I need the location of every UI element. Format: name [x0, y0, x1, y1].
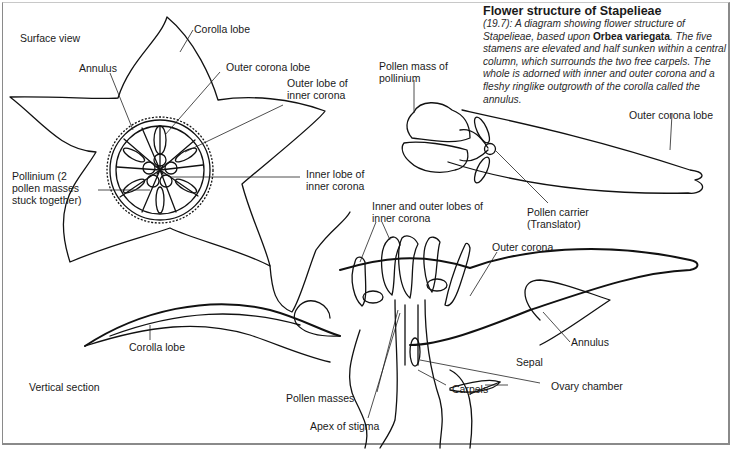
label-sepal: Sepal — [516, 356, 543, 368]
caption-body: (19.7): A diagram showing flower structu… — [483, 18, 731, 106]
caption-species-name: Orbea variegata — [593, 31, 670, 42]
figure-caption: Flower structure of Stapelieae (19.7): A… — [483, 4, 731, 106]
label-pollen-masses: Pollen masses — [286, 392, 354, 404]
surface-view-title: Surface view — [20, 32, 80, 44]
vertical-section — [85, 212, 698, 448]
label-surface-corolla-lobe: Corolla lobe — [194, 23, 250, 35]
label-detail-outer-corona-lobe: Outer corona lobe — [629, 109, 713, 121]
label-section-corolla-lobe: Corolla lobe — [129, 341, 185, 353]
label-surface-outer-corona-lobe: Outer corona lobe — [226, 61, 310, 73]
label-ovary-chamber: Ovary chamber — [551, 380, 623, 392]
label-inner-outer-lobes-inner-corona: Inner and outer lobes of inner corona — [372, 200, 488, 224]
diagram-frame: Flower structure of Stapelieae (19.7): A… — [0, 0, 736, 453]
label-surface-annulus: Annulus — [79, 62, 117, 74]
label-apex-of-stigma: Apex of stigma — [310, 420, 379, 432]
label-pollen-carrier: Pollen carrier (Translator) — [527, 206, 599, 230]
label-surface-outer-lobe-inner-corona: Outer lobe of inner corona — [287, 77, 367, 101]
label-pollen-mass-of-pollinium: Pollen mass of pollinium — [379, 60, 459, 84]
surface-view-corolla — [10, 17, 325, 266]
surface-view-corona — [117, 126, 203, 213]
caption-title: Flower structure of Stapelieae — [483, 4, 731, 18]
label-surface-inner-lobe-inner-corona: Inner lobe of inner corona — [306, 168, 378, 192]
vertical-section-title: Vertical section — [29, 381, 100, 393]
label-carpels: Carpels — [452, 383, 488, 395]
label-surface-pollinium: Pollinium (2 pollen masses stuck togethe… — [12, 170, 88, 206]
label-section-annulus: Annulus — [571, 336, 609, 348]
label-outer-corona: Outer corona — [492, 241, 553, 253]
